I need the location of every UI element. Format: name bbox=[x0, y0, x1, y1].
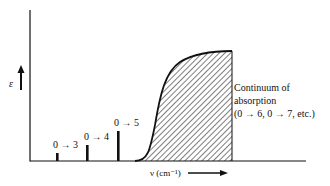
label-0-4: 0 → 4 bbox=[84, 131, 109, 143]
continuum-hatch bbox=[130, 45, 240, 165]
label-0-5: 0 → 5 bbox=[114, 117, 139, 129]
bar-0-4 bbox=[86, 145, 89, 161]
continuum-label: Continuum of absorption (0 → 6, 0 → 7, e… bbox=[234, 81, 315, 120]
y-axis-label: ε bbox=[9, 78, 13, 90]
continuum-label-line1: Continuum of bbox=[234, 81, 315, 94]
label-0-3: 0 → 3 bbox=[53, 139, 78, 151]
y-arrow-icon bbox=[18, 65, 25, 90]
continuum-label-line3: (0 → 6, 0 → 7, etc.) bbox=[234, 107, 315, 120]
continuum-label-line2: absorption bbox=[234, 94, 315, 107]
bar-0-3 bbox=[56, 153, 59, 161]
x-arrow-icon bbox=[188, 170, 228, 176]
bar-0-5 bbox=[117, 131, 120, 161]
absorption-spectrum-diagram: ε 0 → 3 0 → 4 0 → 5 Continuum of absorpt… bbox=[0, 0, 330, 186]
x-axis-label: ν (cm⁻¹) bbox=[150, 167, 181, 179]
